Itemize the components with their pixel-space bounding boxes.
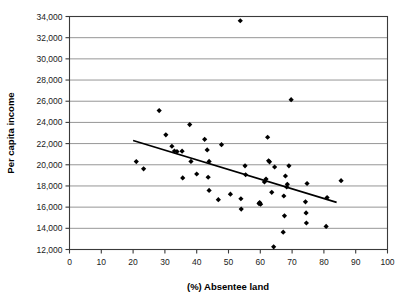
data-point: [238, 18, 243, 23]
data-point: [304, 220, 309, 225]
x-tick-label: 0: [67, 257, 72, 267]
plot-frame: [70, 17, 388, 250]
data-point: [205, 147, 210, 152]
data-point: [194, 171, 199, 176]
data-point: [281, 193, 286, 198]
data-point: [134, 159, 139, 164]
y-tick-label: 16,000: [37, 202, 63, 212]
data-point: [219, 142, 224, 147]
y-tick-label: 22,000: [37, 139, 63, 149]
data-point: [269, 190, 274, 195]
data-point: [243, 172, 248, 177]
y-tick-label: 12,000: [37, 245, 63, 255]
x-tick-label: 20: [128, 257, 138, 267]
y-axis-title: Per capita income: [5, 92, 16, 173]
y-tick-label: 18,000: [37, 181, 63, 191]
data-point: [207, 188, 212, 193]
trend-line-group: [133, 140, 337, 202]
x-tick-label: 30: [160, 257, 170, 267]
x-tick-label: 10: [97, 257, 107, 267]
y-tick-label: 26,000: [37, 96, 63, 106]
x-tick-label: 80: [319, 257, 329, 267]
chart-canvas: 12,00014,00016,00018,00020,00022,00024,0…: [0, 0, 416, 296]
y-tick-labels: 12,00014,00016,00018,00020,00022,00024,0…: [37, 12, 63, 255]
x-tick-label: 70: [287, 257, 297, 267]
x-axis-title: (%) Absentee land: [187, 281, 269, 292]
x-tick-label: 60: [256, 257, 266, 267]
scatter-chart: 12,00014,00016,00018,00020,00022,00024,0…: [0, 0, 416, 296]
data-points-group: [134, 18, 344, 249]
data-point: [202, 137, 207, 142]
x-axis-ticks: [70, 250, 388, 254]
data-point: [303, 210, 308, 215]
x-tick-label: 90: [351, 257, 361, 267]
y-axis-ticks: [66, 17, 70, 250]
y-tick-label: 14,000: [37, 223, 63, 233]
plot-border: [70, 17, 388, 250]
data-point: [179, 149, 184, 154]
data-point: [228, 192, 233, 197]
data-point: [180, 175, 185, 180]
data-point: [206, 175, 211, 180]
data-point: [216, 197, 221, 202]
gridlines: [70, 17, 388, 250]
x-tick-label: 50: [224, 257, 234, 267]
y-tick-label: 34,000: [37, 12, 63, 22]
data-point: [188, 159, 193, 164]
data-point: [157, 108, 162, 113]
data-point: [169, 144, 174, 149]
x-tick-label: 40: [192, 257, 202, 267]
data-point: [238, 196, 243, 201]
data-point: [242, 163, 247, 168]
data-point: [338, 178, 343, 183]
data-point: [286, 163, 291, 168]
x-tick-label: 100: [380, 257, 394, 267]
y-tick-label: 24,000: [37, 117, 63, 127]
data-point: [163, 132, 168, 137]
y-tick-label: 20,000: [37, 160, 63, 170]
y-tick-label: 32,000: [37, 33, 63, 43]
data-point: [282, 213, 287, 218]
data-point: [271, 244, 276, 249]
trend-line: [133, 140, 337, 202]
x-tick-labels: 0102030405060708090100: [67, 257, 395, 267]
data-point: [281, 230, 286, 235]
y-tick-label: 28,000: [37, 75, 63, 85]
data-point: [303, 199, 308, 204]
data-point: [265, 135, 270, 140]
data-point: [304, 181, 309, 186]
data-point: [141, 166, 146, 171]
data-point: [283, 173, 288, 178]
y-tick-label: 30,000: [37, 54, 63, 64]
